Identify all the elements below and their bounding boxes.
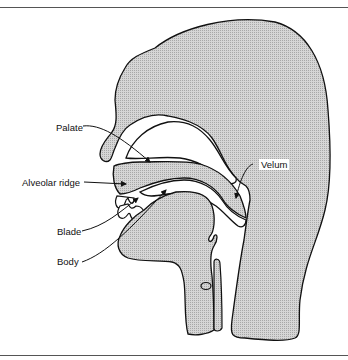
- epiglottis: [214, 259, 222, 331]
- hyoid-bone: [201, 283, 211, 290]
- label-blade: Blade: [57, 226, 81, 237]
- label-alveolar-ridge: Alveolar ridge: [22, 177, 80, 188]
- label-palate: Palate: [56, 122, 83, 133]
- label-velum: Velum: [259, 159, 289, 170]
- label-body: Body: [57, 256, 79, 267]
